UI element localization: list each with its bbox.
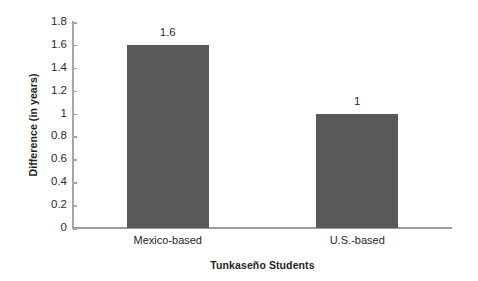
plot-area: 1.61 — [73, 22, 452, 228]
bar-value-label: 1 — [354, 95, 360, 107]
bar-chart: Difference (in years) 00.20.40.60.811.21… — [0, 0, 478, 281]
y-tick-label: 0 — [61, 222, 67, 234]
y-tick-label: 1.4 — [51, 62, 67, 74]
y-tick-label: 0.4 — [51, 176, 67, 188]
y-tick-label: 1.2 — [51, 85, 67, 97]
y-tick-label: 0.8 — [51, 131, 67, 143]
bar-value-label: 1.6 — [160, 26, 176, 38]
x-axis-title: Tunkaseño Students — [73, 259, 452, 271]
category-label: U.S.-based — [330, 234, 385, 247]
category-label: Mexico-based — [134, 234, 202, 247]
y-tick-label: 1.6 — [51, 39, 67, 51]
y-axis-title: Difference (in years) — [22, 22, 44, 228]
y-tick-label: 1 — [61, 108, 67, 120]
y-tick-label: 1.8 — [51, 16, 67, 28]
y-tick-label: 0.6 — [51, 154, 67, 166]
y-tick-mark — [73, 228, 77, 230]
bar — [316, 114, 398, 228]
bar — [127, 45, 209, 228]
y-tick-label: 0.2 — [51, 199, 67, 211]
